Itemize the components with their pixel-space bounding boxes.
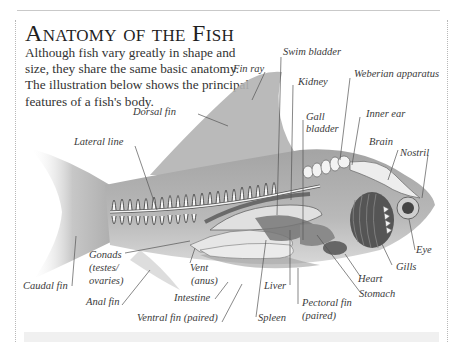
- label-fin-ray: Fin ray: [233, 63, 264, 75]
- label-kidney: Kidney: [298, 76, 328, 88]
- label-weberian-apparatus: Weberian apparatus: [354, 68, 439, 80]
- label-ventral-fin: Ventral fin (paired): [137, 312, 218, 324]
- label-gonads-line2: (testes/: [89, 262, 119, 274]
- label-vent-line2: (anus): [191, 275, 218, 287]
- label-pectoral-fin-line2: (paired): [302, 310, 336, 322]
- gills: [350, 192, 394, 248]
- label-eye: Eye: [416, 244, 432, 256]
- label-gonads-line3: ovaries): [89, 275, 123, 287]
- label-gills: Gills: [396, 261, 416, 273]
- label-gall-bladder-line2: bladder: [306, 123, 339, 135]
- eye: [397, 197, 419, 219]
- label-gall-bladder-line1: Gall: [306, 111, 325, 123]
- label-dorsal-fin: Dorsal fin: [133, 106, 176, 118]
- label-inner-ear: Inner ear: [366, 108, 405, 120]
- label-liver: Liver: [264, 280, 286, 292]
- label-brain: Brain: [369, 136, 393, 148]
- label-anal-fin: Anal fin: [86, 296, 120, 308]
- label-intestine: Intestine: [174, 292, 210, 304]
- label-pectoral-fin-line1: Pectoral fin: [302, 297, 352, 309]
- bottom-shaded-strip: [24, 332, 439, 342]
- label-spleen: Spleen: [258, 312, 286, 324]
- label-nostril: Nostril: [400, 147, 429, 159]
- label-stomach: Stomach: [359, 288, 395, 300]
- label-heart: Heart: [358, 273, 383, 285]
- label-vent-line1: Vent: [190, 262, 208, 274]
- label-lateral-line: Lateral line: [74, 136, 123, 148]
- label-swim-bladder: Swim bladder: [283, 46, 341, 58]
- label-caudal-fin: Caudal fin: [23, 280, 68, 292]
- label-gonads-line1: Gonads: [89, 249, 122, 261]
